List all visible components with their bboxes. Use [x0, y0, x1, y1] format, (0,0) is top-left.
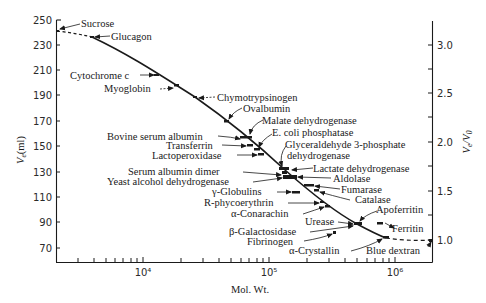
label-sucrose: Sucrose: [81, 18, 115, 29]
marker-ovalbumin: [224, 120, 229, 123]
yrtick-1.0: 1.0: [437, 235, 453, 246]
leader-urease: [338, 222, 353, 224]
x-tick-labels: 10⁴ 10⁵ 10⁶: [135, 267, 404, 278]
label-glucagon: Glucagon: [111, 31, 153, 42]
marker-lactate-dh: [282, 171, 287, 174]
marker-catalase: [314, 189, 319, 192]
leader-fibrinogen: [304, 234, 332, 241]
x-axis-label: Mol. Wt.: [231, 284, 269, 295]
curve-dashed-end: [386, 238, 431, 240]
marker-globulins: [292, 191, 300, 194]
label-gamma-globulins: γ-Globulins: [211, 186, 262, 197]
marker-gapdh: [279, 167, 289, 170]
label-apoferritin: Apoferritin: [376, 204, 424, 215]
marker-lactoperoxidase: [258, 153, 264, 156]
leader-sucrose: [60, 24, 80, 29]
ytick-130: 130: [33, 167, 52, 178]
label-malate-dh: Malate dehydrogenase: [262, 115, 357, 126]
ytick-210: 210: [33, 65, 52, 76]
marker-fumarase: [304, 184, 314, 187]
label-fibrinogen: Fibrinogen: [247, 236, 294, 247]
label-ecoli-phosphatase: E. coli phosphatase: [272, 127, 354, 138]
leader-ecoli: [259, 134, 272, 147]
label-aldolase: Aldolase: [333, 173, 371, 184]
marker-urease: [354, 222, 362, 225]
xtick-1e5: 10⁵: [261, 267, 278, 278]
ytick-190: 190: [33, 90, 52, 101]
leader-chymotrypsinogen: [199, 97, 215, 98]
marker-bsa: [240, 136, 252, 139]
label-blue-dextran: Blue dextran: [366, 245, 421, 256]
label-alpha-crystallin: α-Crystallin: [289, 245, 340, 256]
label-gapdh-1: Glyceraldehyde 3-phosphate: [285, 139, 406, 150]
right-axis-label: Ve/V0: [461, 130, 474, 153]
label-lactoperoxidase: Lactoperoxidase: [152, 150, 222, 161]
ytick-110: 110: [33, 192, 52, 203]
ytick-250: 250: [33, 15, 52, 26]
label-yeast-adh: Yeast alcohol dehydrogenase: [107, 176, 229, 187]
leader-glucagon: [95, 36, 110, 37]
marker-crystallin: [383, 236, 389, 239]
label-ovalbumin: Ovalbumin: [243, 103, 291, 114]
marker-phycoerythrin: [320, 201, 324, 203]
label-chymotrypsinogen: Chymotrypsinogen: [217, 92, 298, 103]
left-tick-labels: 250 230 210 190 170 150 130 110 90 70: [33, 15, 52, 254]
marker-aldolase: [283, 175, 297, 179]
yrtick-2.0: 2.0: [437, 137, 453, 148]
marker-ecoli: [254, 148, 260, 151]
label-urease: Urease: [305, 216, 334, 227]
xtick-1e6: 10⁶: [387, 267, 404, 278]
leader-myoglobin: [160, 88, 173, 89]
leader-conarachin: [303, 207, 324, 214]
ytick-150: 150: [33, 141, 52, 152]
yrtick-2.5: 2.5: [437, 88, 453, 99]
x-ticks: [78, 257, 395, 262]
right-tick-labels: 3.0 2.5 2.0 1.5 1.0: [437, 40, 453, 246]
marker-galactosidase: [333, 231, 336, 234]
label-r-phycoerythrin: R-phycoerythrin: [204, 197, 274, 208]
leader-ovalbumin: [229, 108, 242, 119]
marker-chymotrypsinogen: [193, 96, 197, 98]
label-alpha-conarachin: α-Conarachin: [231, 208, 289, 219]
leader-yadh: [253, 178, 282, 182]
xtick-1e4: 10⁴: [135, 267, 152, 278]
svg-text:Ve/V0: Ve/V0: [461, 130, 474, 153]
marker-cytochrome-c: [154, 74, 159, 76]
right-ticks: [428, 45, 432, 240]
left-axis-label: Ve(ml): [15, 136, 28, 164]
yrtick-3.0: 3.0: [437, 40, 453, 51]
leader-fumarase: [315, 186, 340, 189]
marker-blue-dextran: [429, 239, 432, 242]
ytick-90: 90: [39, 217, 52, 228]
leader-transferrin: [222, 145, 246, 146]
leader-apoferritin: [360, 211, 377, 221]
leader-bsa: [218, 136, 240, 139]
label-gapdh-2: dehydrogenase: [287, 150, 350, 161]
ytick-70: 70: [39, 243, 52, 254]
ytick-230: 230: [33, 40, 52, 51]
label-cytochrome-c: Cytochrome c: [70, 70, 130, 81]
leader-blue-dextran: [428, 242, 431, 247]
label-ferritin: Ferritin: [392, 223, 424, 234]
curve-dashed-start: [57, 31, 92, 37]
svg-text:Ve(ml): Ve(ml): [15, 136, 28, 164]
label-myoglobin: Myoglobin: [104, 83, 151, 94]
ytick-170: 170: [33, 116, 52, 127]
marker-myoglobin: [174, 84, 179, 87]
leader-sa-dimer: [243, 172, 281, 175]
marker-transferrin: [247, 144, 253, 147]
gel-filtration-chart: 250 230 210 190 170 150 130 110 90 70 3.…: [0, 0, 486, 303]
marker-conarachin: [325, 205, 330, 208]
marker-ferritin: [377, 222, 383, 225]
marker-sucrose: [56, 30, 59, 32]
yrtick-1.5: 1.5: [437, 186, 453, 197]
leader-lactate: [292, 168, 313, 170]
leader-aldolase: [298, 177, 331, 178]
marker-glucagon: [90, 36, 94, 38]
